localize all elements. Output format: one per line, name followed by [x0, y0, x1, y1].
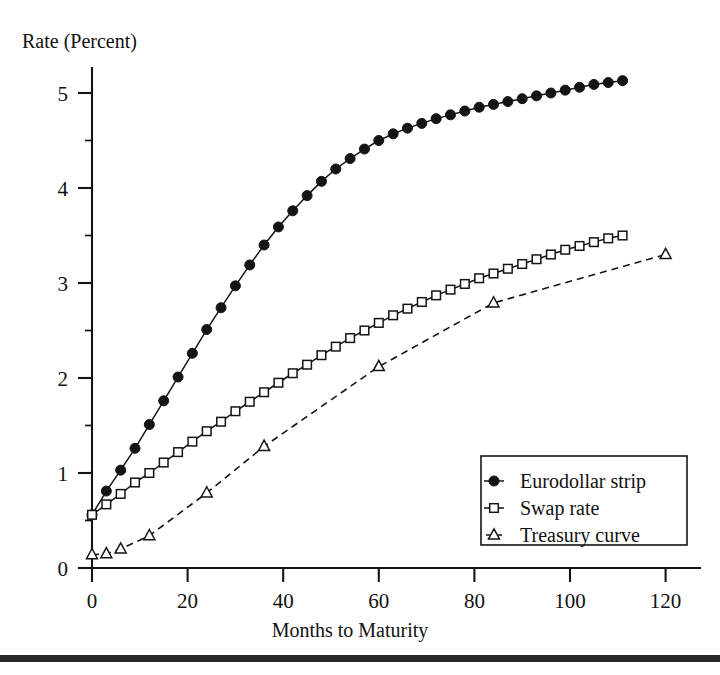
- data-point-marker: [346, 334, 355, 343]
- x-tick-label: 20: [177, 589, 198, 613]
- data-point-marker: [159, 396, 169, 406]
- data-point-marker: [273, 222, 283, 232]
- data-point-marker: [187, 348, 197, 358]
- y-tick-label: 4: [58, 177, 69, 201]
- data-point-marker: [532, 255, 541, 264]
- legend-label: Swap rate: [520, 497, 600, 520]
- data-point-marker: [260, 388, 269, 397]
- data-point-marker: [402, 123, 412, 133]
- data-point-marker: [217, 417, 226, 426]
- data-point-marker: [517, 94, 527, 104]
- data-point-marker: [230, 281, 240, 291]
- data-point-marker: [131, 478, 140, 487]
- data-point-marker: [130, 443, 140, 453]
- data-point-marker: [231, 407, 240, 416]
- page-rule: [0, 655, 720, 662]
- data-point-marker: [202, 325, 212, 335]
- data-point-marker: [303, 360, 312, 369]
- data-point-marker: [575, 242, 584, 251]
- data-point-marker: [159, 458, 168, 467]
- data-point-marker: [331, 164, 341, 174]
- chart-background: [0, 0, 720, 675]
- data-point-marker: [474, 102, 484, 112]
- x-tick-label: 40: [273, 589, 294, 613]
- data-point-marker: [475, 274, 484, 283]
- data-point-marker: [101, 486, 111, 496]
- data-point-marker: [504, 264, 513, 273]
- data-point-marker: [532, 91, 542, 101]
- data-point-marker: [603, 78, 613, 88]
- data-point-marker: [302, 191, 312, 201]
- data-point-marker: [173, 372, 183, 382]
- data-point-marker: [446, 285, 455, 294]
- x-tick-label: 0: [87, 589, 98, 613]
- data-point-marker: [345, 154, 355, 164]
- legend-marker-open-square: [490, 504, 499, 513]
- x-tick-label: 100: [554, 589, 586, 613]
- data-point-marker: [375, 319, 384, 328]
- data-point-marker: [547, 250, 556, 259]
- data-point-marker: [561, 245, 570, 254]
- data-point-marker: [245, 260, 255, 270]
- data-point-marker: [604, 234, 613, 243]
- legend-label: Treasury curve: [520, 524, 640, 547]
- data-point-marker: [503, 97, 513, 107]
- data-point-marker: [460, 106, 470, 116]
- chart-legend: Eurodollar stripSwap rateTreasury curve: [481, 456, 687, 547]
- data-point-marker: [174, 448, 183, 457]
- data-point-marker: [618, 76, 628, 86]
- data-point-marker: [374, 136, 384, 146]
- data-point-marker: [446, 110, 456, 120]
- data-point-marker: [202, 427, 211, 436]
- y-tick-label: 1: [58, 462, 69, 486]
- data-point-marker: [389, 311, 398, 320]
- data-point-marker: [188, 437, 197, 446]
- data-point-marker: [245, 397, 254, 406]
- data-point-marker: [489, 269, 498, 278]
- data-point-marker: [461, 280, 470, 289]
- data-point-marker: [274, 378, 283, 387]
- data-point-marker: [116, 465, 126, 475]
- x-axis-title: Months to Maturity: [272, 619, 429, 642]
- x-tick-label: 80: [464, 589, 485, 613]
- x-tick-label: 60: [368, 589, 389, 613]
- data-point-marker: [418, 298, 427, 307]
- data-point-marker: [590, 238, 599, 247]
- data-point-marker: [589, 79, 599, 89]
- data-point-marker: [331, 342, 340, 351]
- data-point-marker: [360, 326, 369, 335]
- data-point-marker: [359, 144, 369, 154]
- data-point-marker: [102, 500, 111, 509]
- data-point-marker: [145, 469, 154, 478]
- data-point-marker: [259, 240, 269, 250]
- data-point-marker: [88, 511, 97, 520]
- data-point-marker: [144, 420, 154, 430]
- data-point-marker: [288, 369, 297, 378]
- data-point-marker: [431, 114, 441, 124]
- data-point-marker: [575, 82, 585, 92]
- y-axis-title: Rate (Percent): [22, 30, 137, 53]
- x-tick-label: 120: [650, 589, 682, 613]
- data-point-marker: [403, 304, 412, 313]
- data-point-marker: [388, 129, 398, 139]
- data-point-marker: [618, 231, 627, 240]
- data-point-marker: [116, 490, 125, 499]
- data-point-marker: [560, 85, 570, 95]
- data-point-marker: [288, 206, 298, 216]
- rate-curves-chart: Rate (Percent) 012345 020406080100120 Mo…: [0, 0, 720, 675]
- data-point-marker: [518, 260, 527, 269]
- data-point-marker: [417, 118, 427, 128]
- y-tick-label: 2: [58, 367, 69, 391]
- data-point-marker: [489, 99, 499, 109]
- figure-container: Rate (Percent) 012345 020406080100120 Mo…: [0, 0, 720, 675]
- legend-label: Eurodollar strip: [520, 470, 646, 493]
- y-tick-label: 3: [58, 272, 69, 296]
- data-point-marker: [316, 176, 326, 186]
- y-tick-label: 5: [58, 82, 69, 106]
- data-point-marker: [216, 303, 226, 313]
- data-point-marker: [546, 88, 556, 98]
- data-point-marker: [432, 291, 441, 300]
- y-tick-label: 0: [58, 557, 69, 581]
- legend-marker-filled-circle: [489, 476, 499, 486]
- data-point-marker: [317, 351, 326, 360]
